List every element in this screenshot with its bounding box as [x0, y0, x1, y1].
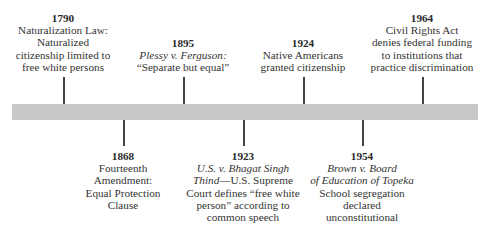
tick-1895: [183, 77, 185, 104]
event-text: Clause: [58, 199, 188, 211]
event-1895: 1895 Plessy v. Ferguson: “Separate but e…: [118, 37, 248, 74]
event-1924: 1924 Native Americans granted citizenshi…: [238, 37, 368, 74]
tick-1924: [303, 77, 305, 104]
event-1954: 1954 Brown v. Board of Education of Tope…: [297, 150, 427, 223]
event-case-name: Thind: [193, 174, 219, 186]
event-text: unconstitutional: [297, 211, 427, 223]
event-year: 1964: [357, 12, 485, 24]
event-text: Naturalized: [0, 36, 128, 48]
event-text: free white persons: [0, 61, 128, 73]
event-case-name: of Education of Topeka: [297, 174, 427, 186]
event-text: Fourteenth: [58, 162, 188, 174]
timeline-bar: [12, 104, 478, 120]
event-text: person” according to: [178, 199, 308, 211]
tick-1868: [123, 120, 125, 146]
event-year: 1954: [297, 150, 427, 162]
event-text: School segregation: [297, 187, 427, 199]
event-year: 1790: [0, 12, 128, 24]
event-case-name: U.S. v. Bhagat Singh: [178, 162, 308, 174]
event-text: Amendment:: [58, 174, 188, 186]
event-text: citizenship limited to: [0, 49, 128, 61]
event-text: common speech: [178, 211, 308, 223]
event-text: Court defines “free white: [178, 187, 308, 199]
event-text: —U.S. Supreme: [219, 174, 293, 186]
event-year: 1924: [238, 37, 368, 49]
tick-1923: [243, 120, 245, 146]
event-case-name: Brown v. Board: [297, 162, 427, 174]
event-text: Naturalization Law:: [0, 24, 128, 36]
event-text: Equal Protection: [58, 187, 188, 199]
event-text: Native Americans: [238, 49, 368, 61]
event-case-name: Plessy v. Ferguson:: [118, 49, 248, 61]
event-text: to institutions that: [357, 49, 485, 61]
tick-1964: [422, 77, 424, 104]
event-year: 1895: [118, 37, 248, 49]
tick-1954: [362, 120, 364, 146]
event-1923: 1923 U.S. v. Bhagat Singh Thind—U.S. Sup…: [178, 150, 308, 223]
event-text: denies federal funding: [357, 36, 485, 48]
event-1868: 1868 Fourteenth Amendment: Equal Protect…: [58, 150, 188, 211]
tick-1790: [63, 77, 65, 104]
event-year: 1868: [58, 150, 188, 162]
event-text: Thind—U.S. Supreme: [178, 174, 308, 186]
event-text: practice discrimination: [357, 61, 485, 73]
event-1964: 1964 Civil Rights Act denies federal fun…: [357, 12, 485, 73]
event-text: Civil Rights Act: [357, 24, 485, 36]
event-1790: 1790 Naturalization Law: Naturalized cit…: [0, 12, 128, 73]
event-text: declared: [297, 199, 427, 211]
event-text: “Separate but equal”: [118, 61, 248, 73]
event-text: granted citizenship: [238, 61, 368, 73]
event-year: 1923: [178, 150, 308, 162]
